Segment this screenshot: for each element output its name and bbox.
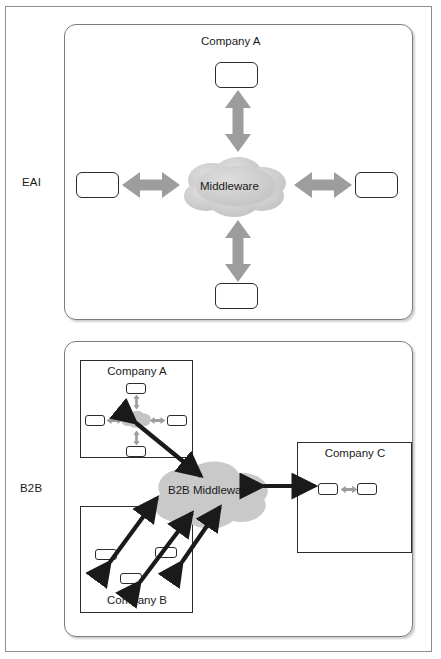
eai-application-box-left [76, 172, 119, 198]
b2b-company-a-title: Company A [100, 365, 174, 377]
b2b-company-b-app-right [155, 547, 177, 558]
b2b-middleware-label: B2B Middleware [168, 484, 252, 496]
row-label-b2b: B2B [20, 482, 42, 494]
eai-company-a-title: Company A [201, 35, 260, 47]
diagram-canvas: EAI Company A [0, 0, 441, 659]
b2b-company-b-app-left [95, 549, 117, 560]
b2b-company-a-app-right [167, 415, 187, 426]
b2b-company-a-app-bottom [126, 446, 146, 457]
b2b-company-b-app-mid [120, 573, 142, 584]
row-label-eai: EAI [22, 176, 41, 188]
b2b-company-b-title: Company B [100, 594, 174, 606]
b2b-company-a-app-left [85, 415, 105, 426]
b2b-company-c-title: Company C [313, 447, 397, 459]
b2b-company-a-app-top [126, 383, 146, 394]
b2b-company-c-app-left [318, 483, 338, 495]
b2b-company-c-app-right [357, 483, 377, 495]
eai-application-box-bottom [215, 283, 258, 309]
eai-application-box-top [215, 62, 258, 88]
eai-middleware-label: Middleware [200, 180, 259, 192]
eai-application-box-right [355, 172, 398, 198]
